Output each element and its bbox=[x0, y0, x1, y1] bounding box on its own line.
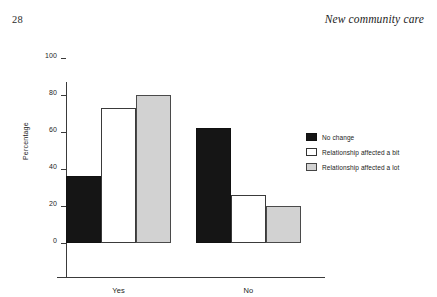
legend-label: No change bbox=[322, 134, 354, 141]
x-axis-tick-label: No bbox=[196, 286, 301, 295]
bar bbox=[266, 206, 301, 243]
bar bbox=[231, 195, 266, 243]
bar bbox=[101, 108, 136, 243]
bar-chart-figure: 020406080100 Percentage YesNo Night-time… bbox=[0, 34, 437, 297]
legend-label: Relationship affected a lot bbox=[322, 164, 399, 171]
legend-label: Relationship affected a bit bbox=[322, 149, 399, 156]
legend-swatch bbox=[306, 133, 317, 141]
running-head: New community care bbox=[325, 13, 424, 25]
page-number: 28 bbox=[12, 14, 23, 25]
x-axis-tick-label: Yes bbox=[66, 286, 171, 295]
legend-swatch bbox=[306, 148, 317, 156]
page-header: 28 New community care bbox=[0, 0, 437, 34]
bar bbox=[66, 176, 101, 243]
legend-item: Relationship affected a lot bbox=[306, 161, 399, 173]
legend-item: No change bbox=[306, 131, 399, 143]
bar bbox=[196, 128, 231, 243]
legend-swatch bbox=[306, 163, 317, 171]
bar bbox=[136, 95, 171, 243]
chart-legend: No changeRelationship affected a bitRela… bbox=[306, 131, 399, 176]
legend-item: Relationship affected a bit bbox=[306, 146, 399, 158]
